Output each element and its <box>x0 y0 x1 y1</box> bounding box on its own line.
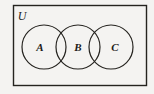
universal-set-rectangle <box>14 6 147 86</box>
venn-diagram-figure: U A B C <box>0 0 154 94</box>
set-circle-a <box>22 25 66 69</box>
set-circle-b <box>56 25 100 69</box>
set-circle-c <box>89 25 133 69</box>
venn-diagram-canvas <box>0 0 154 94</box>
